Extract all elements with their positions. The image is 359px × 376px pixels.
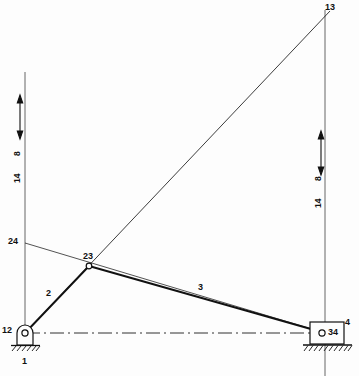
link-label-1: 1 (22, 357, 27, 366)
left-dimension-upper-label: 8 (13, 151, 22, 156)
link-label-3: 3 (198, 283, 203, 292)
right-dimension-lower-label: 14 (314, 199, 323, 208)
slider-ground-hatching (304, 346, 352, 352)
joint-34-pin (319, 330, 325, 336)
instant-center-label-24: 24 (8, 237, 18, 246)
right-dimension-upper-label: 8 (314, 176, 323, 181)
joint-12-pin (22, 330, 28, 336)
instant-center-label-13: 13 (325, 3, 335, 12)
link-label-4: 4 (345, 318, 350, 327)
left-dimension-lower-label: 14 (13, 174, 22, 183)
joint-label-34: 34 (328, 328, 338, 337)
left-velocity-arrow (17, 95, 22, 139)
diagram-canvas: 13 24 23 12 34 1 2 3 4 8 14 8 14 (0, 0, 359, 376)
joint-label-23: 23 (83, 252, 93, 261)
link-3-member (89, 266, 325, 333)
joint-label-12: 12 (2, 326, 12, 335)
linkage-diagram-svg (0, 0, 359, 376)
slider-block-body (310, 322, 344, 344)
pin-support-hatching (12, 346, 40, 351)
right-velocity-arrow (318, 131, 323, 175)
link-2-member (25, 266, 89, 333)
joint-23-pin (86, 263, 92, 269)
link-label-2: 2 (46, 289, 51, 298)
